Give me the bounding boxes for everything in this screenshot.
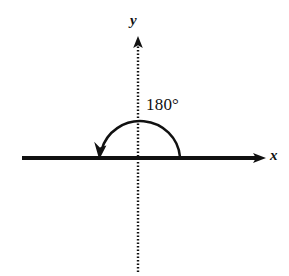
diagram-canvas	[0, 0, 289, 276]
x-axis-label: x	[270, 148, 278, 163]
rotation-diagram-figure: y x 180°	[0, 0, 289, 276]
y-axis-arrowhead	[133, 36, 143, 48]
rotation-arc	[102, 121, 181, 157]
y-axis-label: y	[130, 13, 137, 28]
angle-measure-label: 180°	[146, 96, 179, 113]
